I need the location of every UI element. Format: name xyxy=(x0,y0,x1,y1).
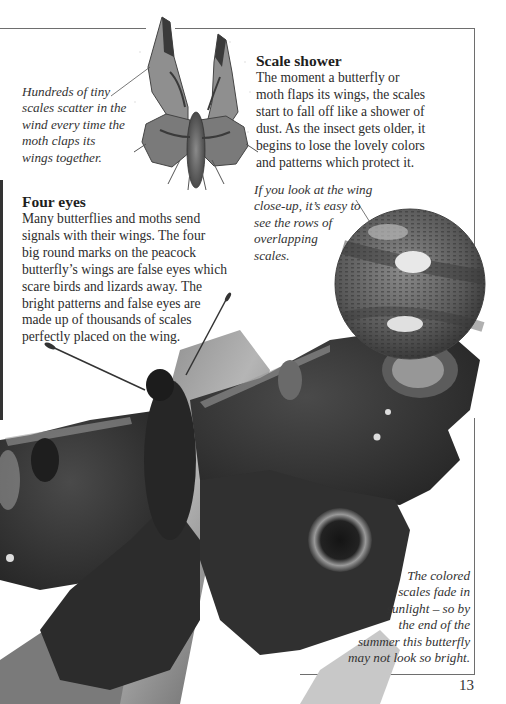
scale-shower-heading: Scale shower xyxy=(256,52,476,70)
caption-line: wind every time the xyxy=(22,117,126,133)
body-line: big round marks on the peacock xyxy=(22,245,262,262)
caption-line: summer this butterfly xyxy=(348,634,470,650)
white-scale-patch xyxy=(395,251,431,273)
eyespot-right xyxy=(308,508,372,572)
caption-line: sunlight – so by xyxy=(348,601,470,617)
caption-line: scales fade in xyxy=(348,584,470,600)
caption-line: scales scatter in the xyxy=(22,100,126,116)
caption-line: If you look at the wing xyxy=(254,182,372,198)
body-line: dust. As the insect gets older, it xyxy=(256,121,476,138)
body-line: Many butterflies and moths send xyxy=(22,211,262,228)
caption-line: may not look so bright. xyxy=(348,650,470,666)
page-number: 13 xyxy=(459,677,474,694)
scale-shower-section: Scale shower The moment a butterfly or m… xyxy=(256,52,476,171)
body-line: start to fall off like a shower of xyxy=(256,104,476,121)
body-line: and patterns which protect it. xyxy=(256,155,476,172)
scale-shower-body: The moment a butterfly or moth flaps its… xyxy=(256,70,476,171)
wing-closeup-magnifier xyxy=(333,207,488,362)
caption-line: The colored xyxy=(348,568,470,584)
white-scale-patch xyxy=(387,316,423,332)
caption-line: moth claps its xyxy=(22,133,126,149)
butterfly-head xyxy=(146,369,174,401)
body-line: moth flaps its wings, the scales xyxy=(256,87,476,104)
caption-line: the end of the xyxy=(348,617,470,633)
caption-line: Hundreds of tiny xyxy=(22,84,126,100)
body-line: butterfly’s wings are false eyes which xyxy=(22,262,262,279)
fade-caption: The colored scales fade in sunlight – so… xyxy=(348,568,470,666)
body-line: The moment a butterfly or xyxy=(256,70,476,87)
butterfly-body xyxy=(144,380,196,540)
moth-caption: Hundreds of tiny scales scatter in the w… xyxy=(22,84,126,166)
caption-line: wings together. xyxy=(22,150,126,166)
body-line: begins to lose the lovely colors xyxy=(256,138,476,155)
antenna-left xyxy=(48,345,145,390)
body-line: signals with their wings. The four xyxy=(22,228,262,245)
four-eyes-heading: Four eyes xyxy=(22,193,262,211)
